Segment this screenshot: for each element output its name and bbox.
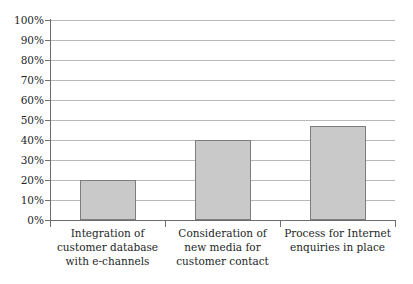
y-axis-label: 80% (0, 55, 44, 65)
y-axis-label: 40% (0, 135, 44, 145)
y-axis-label-wrap: 40% (0, 135, 44, 145)
y-axis-label-wrap: 20% (0, 175, 44, 185)
bar (80, 180, 136, 220)
y-axis-label: 0% (0, 215, 44, 225)
y-axis-label: 90% (0, 35, 44, 45)
x-axis-category-label-line: new media for (165, 240, 280, 254)
y-axis-line (50, 19, 51, 221)
y-axis-label: 60% (0, 95, 44, 105)
y-axis-label: 10% (0, 195, 44, 205)
y-axis-label-wrap: 50% (0, 115, 44, 125)
x-axis-category-label: Process for Internetenquiries in place (280, 226, 395, 254)
y-axis-label: 30% (0, 155, 44, 165)
y-axis-label-wrap: 30% (0, 155, 44, 165)
y-axis-label: 70% (0, 75, 44, 85)
bar-chart: 100%90%80%70%60%50%40%30%20%10%0% Integr… (0, 0, 413, 284)
gridline (50, 20, 395, 21)
x-axis-category-label: Integration ofcustomer databasewith e-ch… (50, 226, 165, 268)
y-axis-label-wrap: 0% (0, 215, 44, 225)
x-axis-category-label-line: Consideration of (165, 226, 280, 240)
x-axis-category-label-line: with e-channels (50, 254, 165, 268)
y-axis-label-wrap: 70% (0, 75, 44, 85)
y-axis-label: 50% (0, 115, 44, 125)
y-axis-label: 20% (0, 175, 44, 185)
gridline (50, 80, 395, 81)
y-axis-label-wrap: 60% (0, 95, 44, 105)
y-axis-label: 100% (0, 15, 44, 25)
y-axis-label-wrap: 100% (0, 15, 44, 25)
gridline (50, 120, 395, 121)
x-axis-category-label-line: customer database (50, 240, 165, 254)
bar (310, 126, 366, 220)
gridline (50, 60, 395, 61)
x-axis-category-label-line: Integration of (50, 226, 165, 240)
bar (195, 140, 251, 220)
x-axis-category-label-line: customer contact (165, 254, 280, 268)
y-axis-label-wrap: 80% (0, 55, 44, 65)
x-axis-category-label-line: enquiries in place (280, 240, 395, 254)
gridline (50, 100, 395, 101)
y-axis-label-wrap: 90% (0, 35, 44, 45)
gridline (50, 40, 395, 41)
category-separator (395, 220, 396, 227)
x-axis-category-label: Consideration ofnew media forcustomer co… (165, 226, 280, 268)
x-axis-category-label-line: Process for Internet (280, 226, 395, 240)
x-axis-line (50, 220, 396, 221)
y-axis-label-wrap: 10% (0, 195, 44, 205)
